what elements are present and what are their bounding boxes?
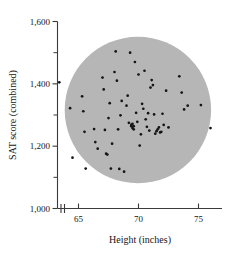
data-point (160, 130, 163, 133)
data-point (81, 95, 84, 98)
data-point (141, 102, 144, 105)
y-tick-label: 1,200 (30, 141, 51, 151)
data-point (148, 129, 151, 132)
data-point (134, 61, 137, 64)
data-point (84, 167, 87, 170)
data-point (146, 125, 149, 128)
data-point (143, 69, 146, 72)
data-point (126, 94, 129, 97)
x-axis-tick-labels: 657075 (74, 214, 204, 224)
x-axis: 657075 Height (inches) (58, 204, 223, 247)
data-point (129, 51, 132, 54)
data-point (162, 124, 165, 127)
data-point (128, 121, 131, 124)
x-axis-ticks (79, 204, 199, 209)
x-tick-label: 75 (194, 214, 204, 224)
data-point (144, 118, 147, 121)
data-point (94, 141, 97, 144)
data-point (107, 117, 110, 120)
data-point (200, 104, 203, 107)
y-tick-label: 1,600 (30, 17, 51, 27)
data-point (165, 89, 168, 92)
data-point (58, 81, 61, 84)
data-point (137, 73, 140, 76)
data-point (209, 127, 212, 130)
data-point (96, 147, 99, 150)
data-point (114, 50, 117, 53)
data-point (120, 100, 123, 103)
x-tick-label: 70 (134, 214, 144, 224)
data-point (140, 133, 143, 136)
data-point (132, 128, 135, 131)
chart-figure: 1,0001,2001,4001,600 SAT score (combined… (0, 0, 228, 257)
data-point (110, 167, 113, 170)
data-point (117, 128, 120, 131)
data-point (131, 122, 134, 125)
data-point (167, 126, 170, 129)
data-point (150, 79, 153, 82)
data-point (108, 102, 111, 105)
data-point (183, 108, 186, 111)
y-axis-title: SAT score (combined) (7, 70, 19, 160)
data-point (106, 153, 109, 156)
data-point (154, 132, 157, 135)
y-axis: 1,0001,2001,4001,600 SAT score (combined… (7, 17, 58, 214)
data-point (83, 130, 86, 133)
x-axis-title: Height (inches) (109, 234, 171, 246)
x-tick-label: 65 (74, 214, 84, 224)
data-point (93, 128, 96, 131)
data-point (125, 104, 128, 107)
data-point (118, 168, 121, 171)
data-point (135, 111, 138, 114)
data-point (71, 156, 74, 159)
y-axis-ticks (53, 22, 58, 209)
data-point (69, 107, 72, 110)
data-point (161, 112, 164, 115)
y-axis-tick-labels: 1,0001,2001,4001,600 (30, 17, 51, 214)
data-point (147, 112, 150, 115)
data-point (142, 107, 145, 110)
data-point (152, 84, 155, 87)
data-point (111, 142, 114, 145)
data-point (102, 88, 105, 91)
data-point (186, 104, 189, 107)
y-tick-label: 1,400 (30, 79, 51, 89)
data-point (136, 121, 139, 124)
data-point (180, 91, 183, 94)
scatter-plot-canvas: 1,0001,2001,4001,600 SAT score (combined… (0, 0, 228, 257)
data-point (153, 113, 156, 116)
data-point (149, 86, 152, 89)
shaded-data-region (65, 37, 211, 183)
data-point (113, 71, 116, 74)
data-point (158, 126, 161, 129)
data-point (82, 110, 85, 113)
y-tick-label: 1,000 (30, 204, 51, 214)
data-point (101, 76, 104, 79)
data-point (132, 125, 135, 128)
data-point (123, 170, 126, 173)
data-point (138, 144, 141, 147)
data-point (116, 79, 119, 82)
data-point (119, 114, 122, 117)
data-point (104, 129, 107, 132)
data-point (178, 75, 181, 78)
